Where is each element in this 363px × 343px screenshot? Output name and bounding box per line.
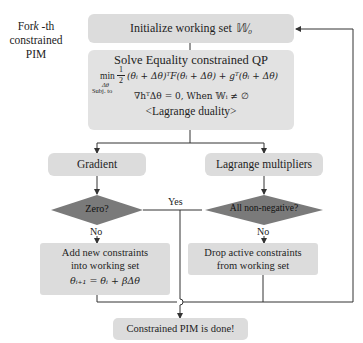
qp-min: min bbox=[100, 71, 115, 81]
qp-objective-expr: (θᵢ + Δθ)ᵀF(θᵢ + Δθ) + gᵀ(θᵢ + Δθ) bbox=[127, 71, 278, 81]
solve-qp-node: Solve Equality constrained QP min Δθ 1 2… bbox=[88, 50, 294, 130]
init-label: Initialize working set bbox=[130, 21, 235, 35]
zero-decision-label: Zero? bbox=[67, 203, 127, 214]
add-line1: Add new constraints bbox=[40, 246, 170, 259]
add-line2: into working set bbox=[40, 259, 170, 272]
add-update-rule: θᵢ₊₁ = θᵢ + βΔθ bbox=[40, 275, 170, 286]
qp-frac-num: 1 bbox=[119, 65, 123, 74]
qp-frac-den: 2 bbox=[119, 76, 123, 85]
add-constraints-node: Add new constraints into working set θᵢ₊… bbox=[40, 243, 170, 295]
lagrange-multipliers-node: Lagrange multipliers bbox=[205, 153, 323, 176]
done-node: Constrained PIM is done! bbox=[113, 318, 248, 340]
yes-label: Yes bbox=[168, 196, 183, 207]
gradient-node: Gradient bbox=[48, 153, 146, 176]
qp-duality: <Lagrange duality> bbox=[88, 104, 294, 118]
init-symbol: 𝕎₀ bbox=[235, 21, 252, 35]
no-label-left: No bbox=[90, 226, 102, 237]
qp-constraint: ∇hᵀΔθ = 0, When 𝕎ᵢ ≠ ∅ bbox=[134, 91, 249, 101]
qp-objective: min Δθ 1 2 (θᵢ + Δθ)ᵀF(θᵢ + Δθ) + gᵀ(θᵢ … bbox=[88, 67, 294, 87]
drop-line1: Drop active constraints bbox=[188, 246, 318, 259]
qp-subj-label: Subj. to bbox=[92, 87, 112, 94]
no-label-right: No bbox=[257, 226, 269, 237]
drop-line2: from working set bbox=[188, 259, 318, 272]
qp-subj: Subj. to ∇hᵀΔθ = 0, When 𝕎ᵢ ≠ ∅ bbox=[88, 87, 294, 103]
nonneg-decision-label: All non-negative? bbox=[214, 203, 314, 213]
initialize-working-set-node: Initialize working set 𝕎₀ bbox=[88, 14, 294, 43]
drop-constraints-node: Drop active constraints from working set bbox=[188, 243, 318, 275]
